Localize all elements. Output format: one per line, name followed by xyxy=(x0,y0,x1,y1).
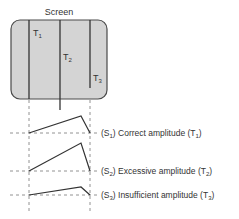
diagram-canvas: Screen T1 T2 T3 (S1) Correct amplitude (… xyxy=(0,0,239,219)
screen-title: Screen xyxy=(45,7,74,17)
label-s2: (S2) Excessive amplitude (T2) xyxy=(101,166,212,177)
screen-box xyxy=(11,20,107,99)
label-s3: (S3) Insufficient amplitude (T3) xyxy=(101,190,214,201)
waveform-s1 xyxy=(29,116,90,133)
waveform-s2 xyxy=(29,143,90,171)
waveform-s3 xyxy=(29,187,90,195)
label-s1: (S1) Correct amplitude (T1) xyxy=(101,128,202,139)
